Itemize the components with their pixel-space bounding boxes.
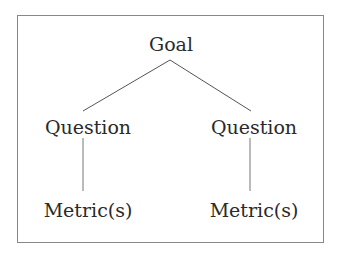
metric-node-left: Metric(s) [44,201,133,220]
edge-goal-question-left [83,60,170,111]
goal-node: Goal [149,35,193,54]
metric-node-right: Metric(s) [210,201,299,220]
question-node-left: Question [45,118,131,137]
question-node-right: Question [211,118,297,137]
edge-goal-question-right [170,60,251,111]
